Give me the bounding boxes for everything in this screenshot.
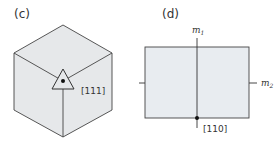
direction-label-111: [111] <box>81 86 105 96</box>
crystal-symmetry-diagram: (c) [111] (d) m1 m2 [110] <box>0 0 278 159</box>
mirror-label-m1: m1 <box>192 25 204 36</box>
panel-c-label: (c) <box>14 7 30 21</box>
panel-d: (d) m1 m2 [110] <box>139 7 274 134</box>
mirror-label-m2: m2 <box>261 78 274 89</box>
panel-c: (c) [111] <box>14 7 112 137</box>
direction-label-110: [110] <box>203 124 227 134</box>
axis-dot-icon <box>61 79 65 83</box>
axis-dot-icon <box>195 116 199 120</box>
panel-d-label: (d) <box>162 7 179 21</box>
